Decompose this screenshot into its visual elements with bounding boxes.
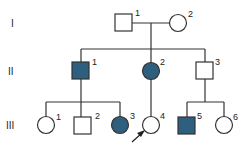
label-II3: 3 [215, 57, 220, 67]
individual-III6-female [216, 117, 233, 134]
generation-label-2: II [8, 66, 14, 77]
generation-label-1: I [11, 18, 14, 29]
individual-III3-female-affected [112, 117, 129, 134]
label-III4: 4 [160, 111, 165, 121]
individual-III2-male [74, 117, 91, 134]
individual-II2-female-affected [143, 63, 160, 80]
label-I1: 1 [135, 8, 140, 18]
label-III2: 2 [95, 111, 100, 121]
individual-III1-female [38, 117, 55, 134]
generation-label-3: III [6, 120, 14, 131]
label-II1: 1 [92, 57, 97, 67]
label-III6: 6 [233, 112, 238, 122]
individual-II3-male [196, 62, 213, 79]
label-I2: 2 [188, 9, 193, 19]
individual-I2-female [170, 15, 187, 32]
pedigree-chart: I II III 1 [0, 0, 246, 151]
label-II2: 2 [160, 57, 165, 67]
individual-I1-male [115, 14, 132, 31]
label-III5: 5 [197, 111, 202, 121]
label-III1: 1 [56, 112, 61, 122]
proband-arrow-icon [132, 130, 145, 142]
individual-II1-male-affected [72, 62, 89, 79]
label-III3: 3 [130, 111, 135, 121]
individual-III5-male-affected [178, 117, 195, 134]
individual-III4-female-proband [143, 117, 160, 134]
